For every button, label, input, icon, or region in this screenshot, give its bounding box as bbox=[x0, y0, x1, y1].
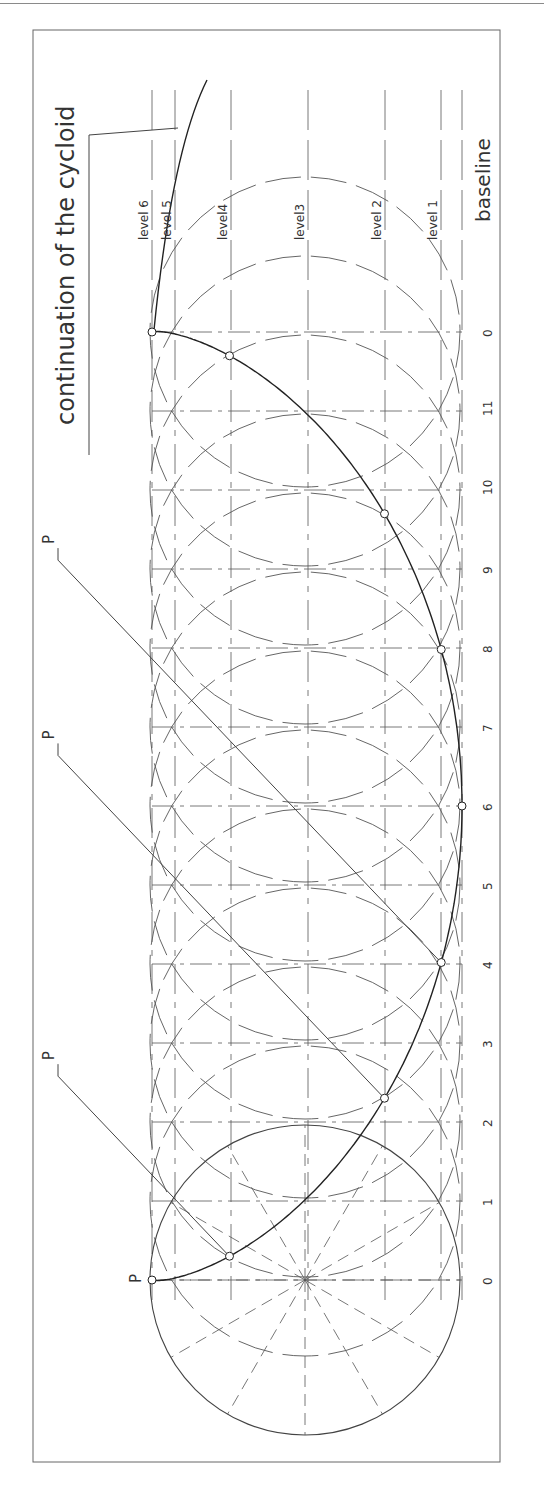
drawing-frame bbox=[33, 30, 500, 1462]
p-callouts: PPP bbox=[40, 535, 438, 1253]
division-number: 7 bbox=[481, 724, 495, 732]
text-labels: continuation of the cycloidbaselinelevel… bbox=[52, 105, 495, 1285]
title-label: continuation of the cycloid bbox=[52, 105, 80, 425]
cycloid-point-marker bbox=[381, 1094, 389, 1102]
radial-spoke bbox=[171, 1280, 305, 1358]
level-label: level 1 bbox=[426, 200, 440, 240]
p-start-label: P bbox=[127, 1274, 145, 1283]
title-leader bbox=[89, 128, 178, 135]
division-number: 0 bbox=[481, 1277, 495, 1285]
cycloid-point-marker bbox=[226, 352, 234, 360]
cycloid-point-marker bbox=[437, 959, 445, 967]
level-label: level4 bbox=[216, 204, 230, 240]
p-leader-line bbox=[58, 743, 382, 1095]
level-label: level 6 bbox=[137, 200, 151, 240]
cycloid-point-marker bbox=[381, 510, 389, 518]
cycloid-point-marker bbox=[226, 1252, 234, 1260]
radial-spoke bbox=[305, 1203, 439, 1281]
cycloid-construction-drawing: PPP continuation of the cycloidbaselinel… bbox=[0, 0, 544, 1499]
radial-spoke bbox=[305, 1146, 383, 1280]
p-leader-line bbox=[58, 548, 438, 959]
level-label: level3 bbox=[293, 204, 307, 240]
division-number: 4 bbox=[481, 961, 495, 969]
division-number: 8 bbox=[481, 645, 495, 653]
radial-spoke bbox=[171, 1203, 305, 1281]
cycloid-curve bbox=[152, 80, 462, 1281]
division-number: 9 bbox=[481, 566, 495, 574]
division-number: 2 bbox=[481, 1119, 495, 1127]
radial-spoke bbox=[305, 1280, 383, 1414]
division-number: 11 bbox=[481, 401, 495, 416]
cycloid-point-marker bbox=[437, 646, 445, 654]
baseline-label: baseline bbox=[471, 138, 495, 222]
p-label: P bbox=[40, 1051, 58, 1060]
level-label: level 5 bbox=[160, 200, 174, 240]
cycloid-point-marker bbox=[148, 1276, 156, 1284]
radial-spoke bbox=[305, 1280, 439, 1358]
cycloid-point-marker bbox=[458, 802, 466, 810]
p-label: P bbox=[40, 535, 58, 544]
radial-spoke bbox=[228, 1280, 306, 1414]
cycloid-point-marker bbox=[148, 328, 156, 336]
division-number: 3 bbox=[481, 1040, 495, 1048]
division-number: 5 bbox=[481, 882, 495, 890]
division-number: 6 bbox=[481, 803, 495, 811]
construction-lines bbox=[150, 90, 462, 1435]
level-label: level 2 bbox=[370, 200, 384, 240]
division-number: 1 bbox=[481, 1198, 495, 1206]
division-number: 10 bbox=[481, 480, 495, 495]
division-number: 0 bbox=[481, 329, 495, 337]
p-label: P bbox=[40, 730, 58, 739]
radial-spoke bbox=[228, 1146, 306, 1280]
